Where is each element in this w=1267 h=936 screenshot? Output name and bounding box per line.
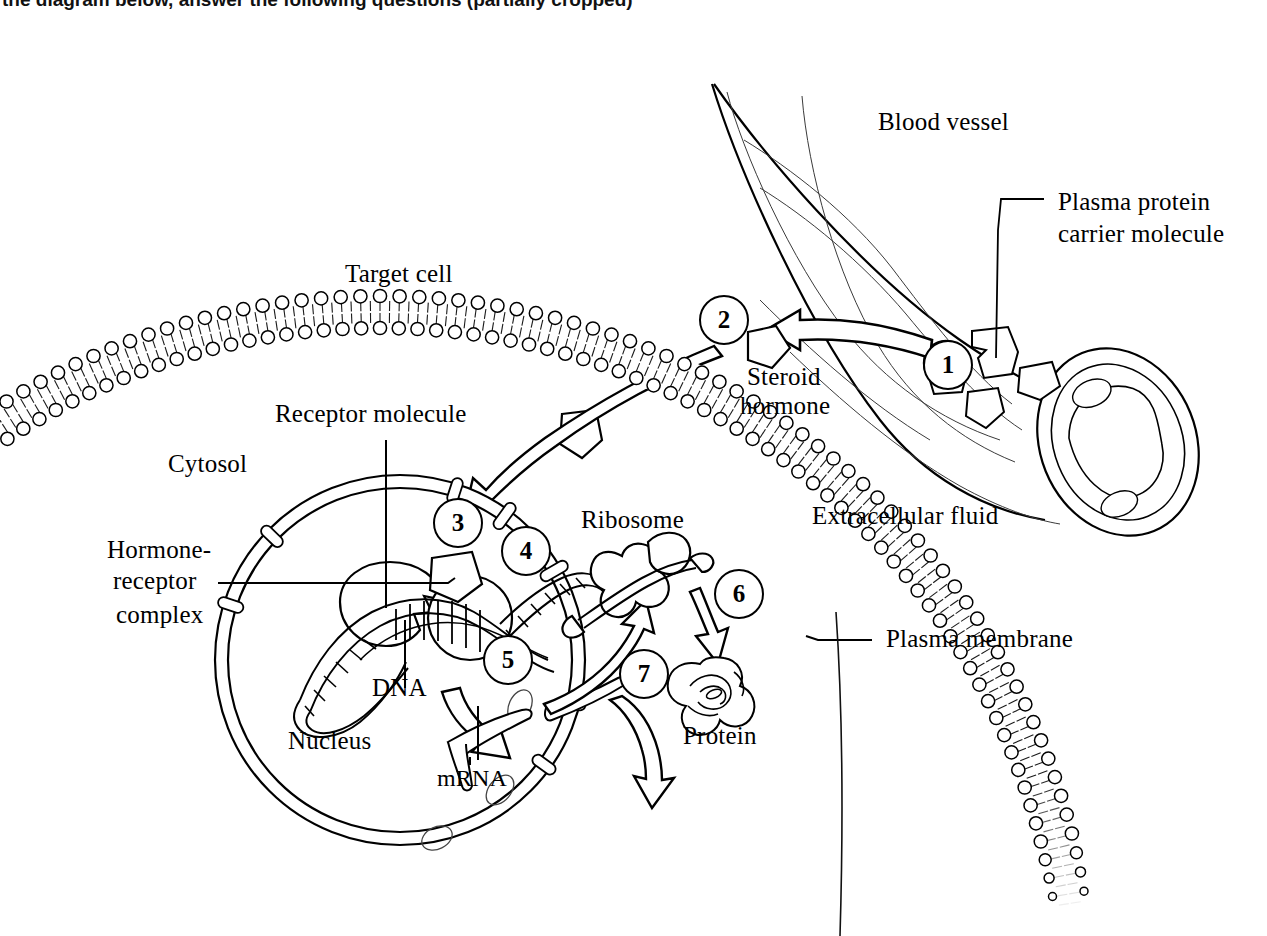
step-marker-5: 5 (483, 635, 533, 685)
label-steroid-hormone-line2: hormone (740, 391, 830, 420)
label-cytosol: Cytosol (168, 449, 247, 478)
label-plasma-membrane: Plasma membrane (886, 624, 1073, 653)
label-mrna: mRNA (437, 764, 507, 793)
label-hormone-receptor-line2: receptor (113, 566, 197, 595)
label-hormone-receptor-line3: complex (116, 600, 203, 629)
step-marker-7: 7 (619, 649, 669, 699)
label-blood-vessel: Blood vessel (878, 107, 1009, 136)
step-marker-2: 2 (699, 295, 749, 345)
step-number-5: 5 (502, 646, 515, 674)
page-header: the diagram below, answer the following … (0, 0, 1267, 11)
step-number-4: 4 (520, 537, 533, 565)
label-dna: DNA (372, 673, 427, 702)
diagram-canvas: the diagram below, answer the following … (0, 0, 1267, 936)
label-protein: Protein (683, 721, 757, 750)
label-steroid-hormone-line1: Steroid (747, 362, 821, 391)
step-number-2: 2 (718, 306, 731, 334)
step-number-1: 1 (942, 351, 955, 379)
step-marker-6: 6 (714, 569, 764, 619)
label-target-cell: Target cell (345, 259, 453, 288)
step-marker-4: 4 (501, 526, 551, 576)
step-number-6: 6 (733, 580, 746, 608)
label-nucleus: Nucleus (288, 726, 371, 755)
step-marker-1: 1 (923, 340, 973, 390)
step-number-7: 7 (638, 660, 651, 688)
label-hormone-receptor-line1: Hormone- (107, 535, 211, 564)
header-title: the diagram below, answer the following … (2, 0, 1267, 9)
label-receptor-molecule: Receptor molecule (275, 399, 467, 428)
step-number-3: 3 (452, 509, 465, 537)
label-ribosome: Ribosome (581, 505, 684, 534)
hormone-release-arrow (766, 310, 932, 358)
label-extracellular-fluid: Extracellular fluid (812, 501, 998, 530)
protein-response-arrow (610, 696, 674, 808)
label-plasma-protein-carrier-line2: carrier molecule (1058, 219, 1224, 248)
step-marker-3: 3 (433, 498, 483, 548)
label-plasma-protein-carrier-line1: Plasma protein (1058, 187, 1210, 216)
plasma-membrane-leader-line (806, 636, 872, 640)
